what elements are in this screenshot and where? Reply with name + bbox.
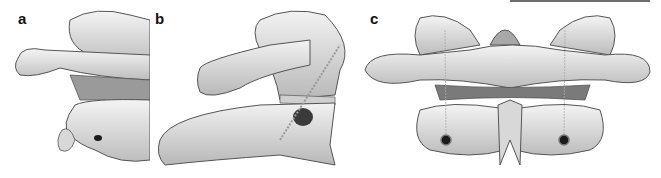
panel-c: c — [360, 0, 661, 178]
panel-b: b — [150, 0, 360, 178]
vertebra-illustration-a — [0, 0, 150, 178]
vertebra-illustration-b — [150, 0, 360, 178]
panel-a: a — [0, 0, 150, 178]
vertebra-illustration-c — [360, 0, 661, 178]
